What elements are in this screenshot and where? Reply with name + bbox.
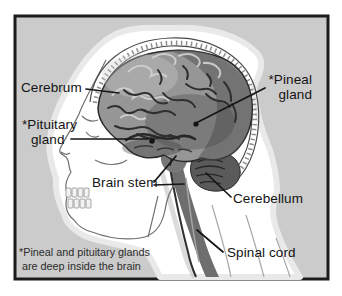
label-cerebellum: Cerebellum [233, 191, 303, 206]
footnote-line1: *Pineal and pituitary glands [19, 246, 150, 258]
label-pineal-gland: *Pineal gland [259, 72, 312, 102]
leader-brainstem-lower [154, 184, 184, 185]
label-pineal-line2: gland [278, 87, 312, 102]
brain-diagram-figure: Cerebrum *Pineal gland *Pituitary gland … [0, 0, 342, 296]
pituitary-gland-dot [149, 138, 155, 144]
label-pituitary-line1: *Pituitary [22, 117, 77, 132]
label-spinal-cord: Spinal cord [227, 245, 296, 260]
label-pituitary-gland: *Pituitary gland [22, 117, 77, 147]
label-pineal-line1: *Pineal [269, 72, 312, 87]
footnote: *Pineal and pituitary glands are deep in… [19, 246, 150, 273]
footnote-line2: are deep inside the brain [19, 260, 150, 274]
label-cerebrum: Cerebrum [21, 80, 82, 95]
label-brain-stem: Brain stem [92, 175, 158, 190]
label-pituitary-line2: gland [22, 132, 77, 147]
